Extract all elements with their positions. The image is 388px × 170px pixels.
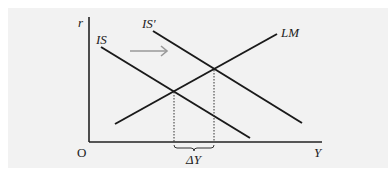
lm-label: LM [280,25,300,40]
is-prime-curve [153,31,302,123]
y-axis-label: r [78,15,84,30]
lm-curve [115,34,277,124]
delta-y-label: ΔY [185,152,203,167]
delta-y-brace [174,145,214,151]
is-lm-diagram: r Y O IS IS′ LM ΔY [0,0,388,170]
x-axis-label: Y [314,145,323,160]
shift-arrow-icon [130,46,167,56]
is-label: IS [95,32,107,47]
origin-label: O [77,145,86,160]
is-prime-label: IS′ [141,16,156,31]
